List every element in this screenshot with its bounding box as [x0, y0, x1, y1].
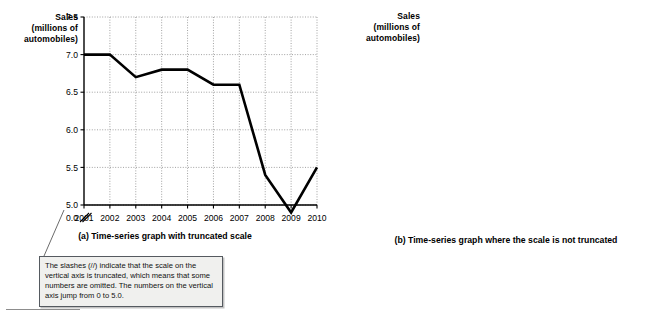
callout-box: The slashes (//) indicate that the scale… [39, 256, 223, 307]
y-axis-tick-label: 6.5 [66, 87, 78, 97]
y-axis-tick-label: 5.0 [66, 200, 78, 210]
y-axis-title-line-1: Sales [340, 11, 420, 22]
y-axis-tick-label: 7.5 [66, 12, 78, 22]
x-axis-tick-label: 2005 [178, 213, 197, 223]
x-axis-tick-label: 2004 [152, 213, 171, 223]
x-axis-tick-label: 2007 [230, 213, 249, 223]
y-axis-tick-label: 7.0 [66, 50, 78, 60]
caption-a: (a) Time-series graph with truncated sca… [0, 231, 330, 241]
bottom-divider [6, 309, 80, 310]
figure-root: Sales (millions of automobiles) 5.05.56.… [0, 0, 672, 320]
x-axis-tick-label: 2008 [256, 213, 275, 223]
caption-b: (b) Time-series graph where the scale is… [340, 235, 672, 245]
chart-a-svg: 5.05.56.06.57.07.50.02001200220032004200… [0, 0, 340, 250]
callout-text: The slashes (//) indicate that the scale… [45, 261, 217, 301]
chart-panel-a: Sales (millions of automobiles) 5.05.56.… [0, 0, 340, 250]
y-axis-tick-label: 5.5 [66, 163, 78, 173]
x-axis-tick-label: 2010 [307, 213, 326, 223]
x-axis-tick-label: 2001 [74, 213, 93, 223]
y-axis-tick-label: 6.0 [66, 125, 78, 135]
data-series-line [84, 55, 317, 213]
x-axis-tick-label: 2006 [204, 213, 223, 223]
x-axis-tick-label: 2003 [126, 213, 145, 223]
y-axis-title-line-2: (millions of [340, 22, 420, 33]
x-axis-tick-label: 2002 [100, 213, 119, 223]
y-axis-title-b: Sales (millions of automobiles) [340, 11, 420, 44]
y-axis-title-line-3: automobiles) [340, 33, 420, 44]
